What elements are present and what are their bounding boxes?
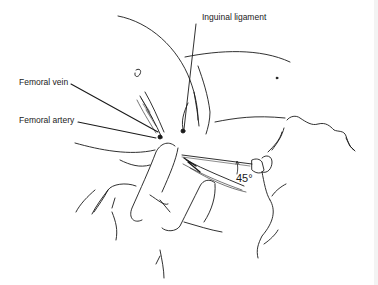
medical-illustration: Inguinal ligament Femoral vein Femoral a… xyxy=(0,0,378,285)
line-drawing xyxy=(0,0,378,285)
syringe-hub xyxy=(252,159,264,173)
abdomen-outline xyxy=(118,16,198,120)
label-needle-angle: 45° xyxy=(236,173,253,184)
label-femoral-artery: Femoral artery xyxy=(19,116,74,125)
skin-mark xyxy=(135,69,141,76)
label-inguinal-ligament: Inguinal ligament xyxy=(202,13,266,22)
upper-contour xyxy=(185,52,290,62)
femoral-artery-point xyxy=(158,135,162,139)
label-femoral-vein: Femoral vein xyxy=(19,78,68,87)
right-hand xyxy=(257,172,273,258)
femoral-vein-point xyxy=(181,129,185,133)
hand-back xyxy=(75,143,155,152)
leader-inguinal xyxy=(184,24,196,129)
needle xyxy=(182,155,252,164)
skin-dot xyxy=(276,77,278,79)
wrist xyxy=(156,250,164,278)
thigh-contour xyxy=(215,117,285,122)
leader-femoral-vein xyxy=(71,84,158,132)
